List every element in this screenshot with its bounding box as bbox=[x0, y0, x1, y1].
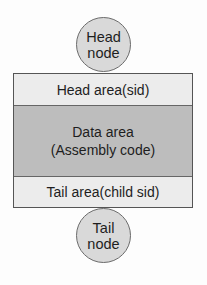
tail-node: Tail node bbox=[76, 208, 131, 263]
tail-area: Tail area(child sid) bbox=[14, 177, 192, 207]
head-area: Head area(sid) bbox=[14, 74, 192, 105]
head-node-label-line1: Head bbox=[86, 29, 121, 45]
tail-node-label-line2: node bbox=[87, 236, 119, 252]
code-block: Head area(sid) Data area (Assembly code)… bbox=[13, 73, 193, 208]
head-area-label: Head area(sid) bbox=[57, 81, 150, 99]
tail-area-label: Tail area(child sid) bbox=[47, 183, 160, 201]
head-node-label-line2: node bbox=[87, 45, 119, 61]
tail-node-label-line1: Tail bbox=[93, 220, 115, 236]
head-node: Head node bbox=[76, 17, 131, 72]
data-area-label-line2: (Assembly code) bbox=[51, 141, 155, 159]
data-area: Data area (Assembly code) bbox=[14, 105, 192, 177]
data-area-label-line1: Data area bbox=[72, 123, 133, 141]
